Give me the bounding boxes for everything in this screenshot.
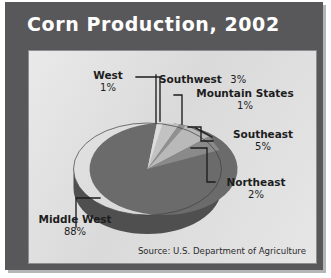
chart-title: Corn Production, 2002 [27,13,280,35]
corn-production-figure: Corn Production, 2002 [0,0,331,278]
chart-frame: Corn Production, 2002 [5,2,323,270]
label-northeast-name: Northeast [207,177,305,189]
chart-panel: West 1% Southwest 3% Mountain States 1% … [28,50,317,264]
source-note: Source: U.S. Department of Agriculture [138,246,306,256]
label-southeast: Southeast 5% [215,129,311,152]
label-west: West 1% [82,70,134,93]
label-southwest-value: 3% [230,74,246,85]
label-middle-west-name: Middle West [31,214,119,226]
label-west-name: West [82,70,134,82]
label-southeast-name: Southeast [215,129,311,141]
label-northeast: Northeast 2% [207,177,305,200]
label-mountain-states-value: 1% [177,100,313,111]
pie-top-face [74,123,238,215]
label-mountain-states: Mountain States 1% [177,88,313,111]
title-band: Corn Production, 2002 [5,2,323,50]
label-west-value: 1% [82,82,134,93]
label-northeast-value: 2% [207,189,305,200]
label-mountain-states-name: Mountain States [177,88,313,100]
label-southwest-name: Southwest [159,73,222,85]
label-southeast-value: 5% [215,141,311,152]
label-middle-west: Middle West 88% [31,214,119,237]
label-southwest: Southwest 3% [159,69,246,87]
label-middle-west-value: 88% [31,226,119,237]
